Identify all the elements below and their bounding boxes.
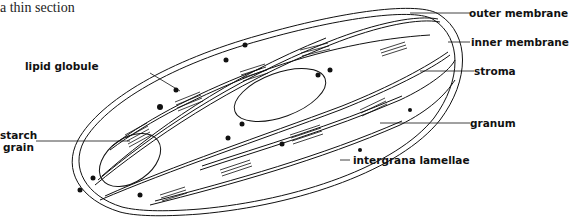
label-lipid-globule: lipid globule <box>25 60 99 72</box>
label-starch: starch <box>0 129 37 141</box>
label-grain: grain <box>3 141 34 153</box>
label-stroma: stroma <box>474 65 516 77</box>
label-intergrana-lamellae: intergrana lamellae <box>353 154 470 166</box>
starch-grain-shape <box>227 58 332 132</box>
label-outer-membrane: outer membrane <box>469 7 568 19</box>
label-inner-membrane: inner membrane <box>471 36 569 48</box>
label-granum: granum <box>470 117 516 129</box>
